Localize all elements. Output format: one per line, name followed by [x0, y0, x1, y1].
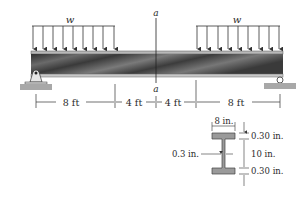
dimension-label-1: 8 ft [63, 97, 80, 108]
beam-diagram: w w a a [0, 0, 307, 207]
beam [31, 51, 283, 77]
flange-width-label: 8 in. [214, 116, 233, 126]
i-beam-cross-section-icon [212, 133, 235, 174]
dimension-label-3: 4 ft [165, 97, 182, 108]
distributed-load-left: w [32, 14, 115, 49]
load-label-right: w [233, 14, 242, 25]
dimension-label-2: 4 ft [126, 97, 143, 108]
bottom-flange-thickness-label: 0.30 in. [251, 166, 284, 176]
dimension-label-4: 8 ft [228, 97, 245, 108]
top-flange-thickness-label: 0.30 in. [251, 131, 284, 141]
vertical-dimensions [239, 122, 249, 186]
section-label-bottom: a [153, 84, 158, 94]
roller-support-icon [264, 77, 296, 89]
web-thickness-label: 0.3 in. [172, 149, 199, 159]
web-height-label: 10 in. [251, 149, 275, 159]
load-label-left: w [66, 14, 75, 25]
section-label-top: a [153, 8, 158, 18]
distributed-load-right: w [196, 14, 280, 49]
